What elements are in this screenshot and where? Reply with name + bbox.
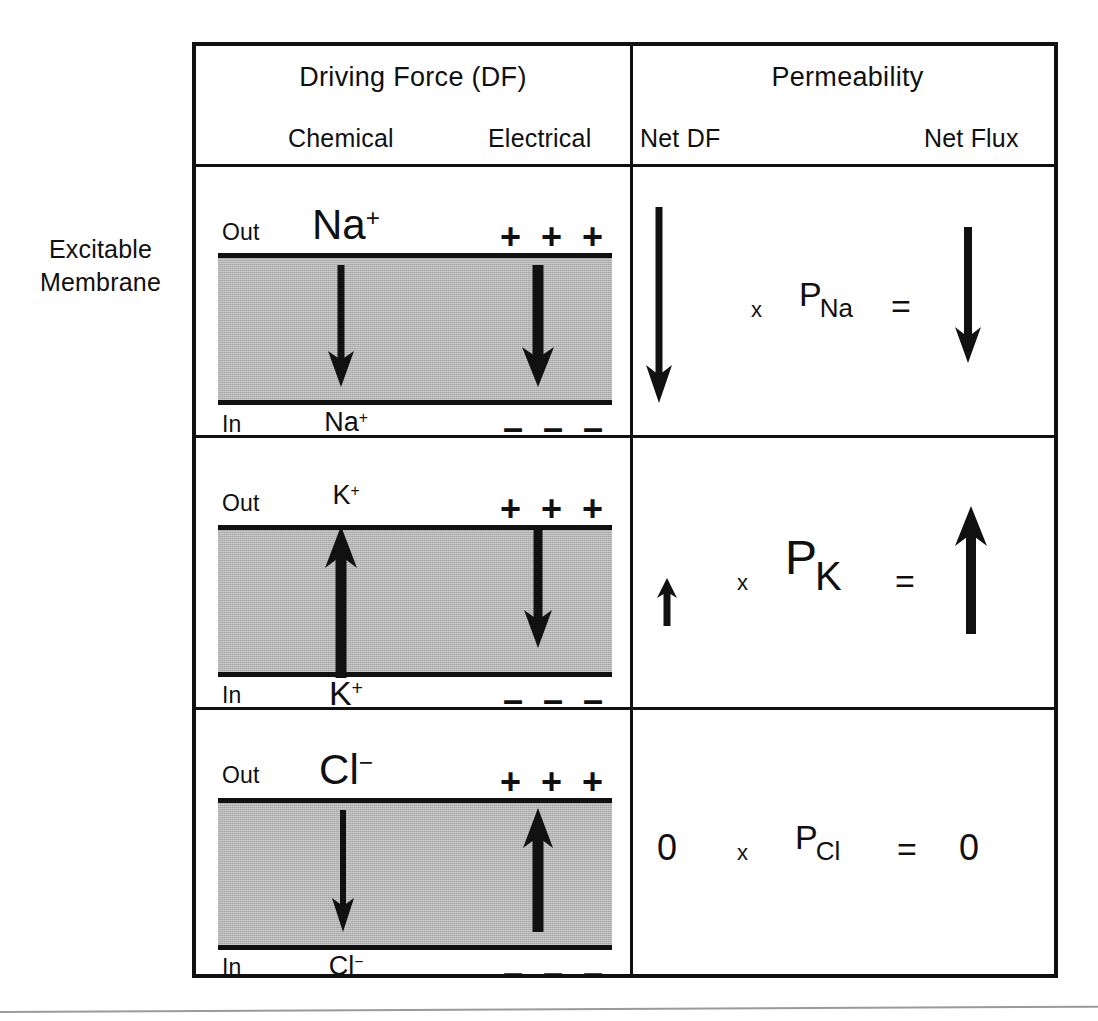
ion-charge-in: −	[354, 953, 363, 970]
ion-name-out: Na	[312, 201, 366, 248]
ion-charge-out: +	[350, 482, 359, 499]
multiply-operator: x	[751, 299, 762, 321]
permeability-equation-cl: 0 x PCl = 0	[633, 710, 1062, 978]
header-net-df: Net DF	[640, 124, 720, 153]
permeability-equation-na: x PNa =	[633, 167, 1062, 435]
charge-outside-positive: + + +	[500, 219, 608, 255]
net-flux-arrow-up-icon	[951, 506, 991, 638]
header-permeability: Permeability	[633, 62, 1062, 93]
equals-operator: =	[895, 564, 915, 598]
chemical-force-arrow-down-icon	[328, 810, 358, 936]
ion-charge-out: +	[366, 204, 380, 231]
ion-name-in: Na	[324, 407, 359, 437]
permeability-symbol-k: PK	[785, 534, 844, 582]
net-df-arrow-down-icon	[641, 207, 677, 407]
charge-inside-negative: – – –	[503, 955, 608, 991]
side-label-line-2: Membrane	[18, 266, 183, 299]
permeability-p: P	[795, 818, 818, 856]
ion-label-inside: Na+	[196, 407, 496, 438]
multiply-operator: x	[737, 842, 748, 864]
ion-name-out: Cl	[319, 746, 359, 793]
permeability-subscript: Na	[820, 293, 853, 323]
multiply-operator: x	[737, 572, 748, 594]
permeability-symbol-na: PNa	[799, 277, 855, 311]
membrane-diagram-k: Out In K+ K+ + + + – – –	[196, 438, 630, 707]
net-df-arrow-up-icon	[655, 578, 679, 630]
ion-charge-out: −	[359, 749, 373, 776]
net-df-value-zero: 0	[657, 830, 677, 866]
equals-operator: =	[897, 832, 917, 866]
net-flux-value-zero: 0	[959, 830, 979, 866]
permeability-p: P	[785, 531, 817, 584]
charge-outside-positive: + + +	[500, 764, 608, 800]
electrical-force-arrow-up-icon	[518, 808, 558, 936]
permeability-symbol-cl: PCl	[795, 820, 842, 854]
permeability-equation-k: x PK =	[633, 438, 1062, 707]
ion-label-outside: K+	[196, 480, 496, 511]
permeability-subscript: Cl	[816, 836, 841, 866]
ion-label-inside: Cl−	[196, 951, 496, 982]
header-net-flux: Net Flux	[924, 124, 1019, 153]
membrane-diagram-na: Out In Na+ Na+ + + + – – –	[196, 167, 630, 435]
equals-operator: =	[891, 289, 911, 323]
header-driving-force: Driving Force (DF)	[196, 62, 630, 93]
electrical-force-arrow-down-icon	[520, 530, 556, 652]
ion-name-out: K	[332, 480, 350, 510]
ion-label-outside: Na+	[196, 201, 496, 249]
electrical-force-arrow-down-icon	[518, 265, 558, 391]
chemical-force-arrow-down-icon	[324, 265, 358, 391]
header-electrical: Electrical	[488, 124, 591, 153]
ion-label-outside: Cl−	[196, 746, 496, 794]
membrane-diagram-cl: Out In Cl− Cl− + + + – – –	[196, 710, 630, 978]
ion-name-in: Cl	[329, 951, 355, 981]
header-chemical: Chemical	[288, 124, 394, 153]
chemical-force-arrow-up-icon	[320, 526, 362, 682]
charge-outside-positive: + + +	[500, 491, 608, 527]
side-label-line-1: Excitable	[18, 233, 183, 266]
ion-charge-in: +	[359, 409, 368, 426]
membrane-permeability-table: Driving Force (DF) Permeability Chemical…	[192, 42, 1058, 978]
permeability-subscript: K	[815, 554, 842, 598]
bottom-divider-rule	[0, 1006, 1098, 1013]
excitable-membrane-label: Excitable Membrane	[18, 233, 183, 299]
net-flux-arrow-down-icon	[951, 227, 985, 367]
permeability-p: P	[799, 275, 822, 313]
